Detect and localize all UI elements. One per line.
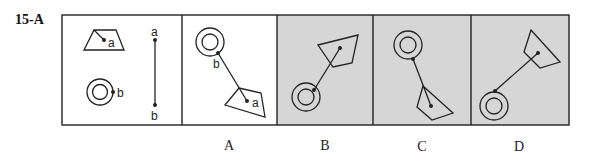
svg-text:a: a [252, 96, 259, 110]
prompt-panel: a b a b [84, 25, 158, 123]
option-label-b[interactable]: B [310, 138, 340, 154]
shaded-background [277, 15, 569, 125]
label-a-top: a [151, 25, 158, 39]
label-a: a [108, 36, 115, 50]
option-label-d[interactable]: D [504, 139, 534, 155]
label-b: b [117, 86, 124, 100]
option-label-c[interactable]: C [407, 139, 437, 155]
svg-text:b: b [213, 57, 220, 71]
option-a-figure: b a [196, 28, 265, 117]
label-b-bottom: b [151, 109, 158, 123]
option-label-a[interactable]: A [214, 138, 244, 154]
